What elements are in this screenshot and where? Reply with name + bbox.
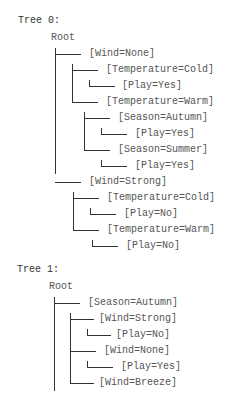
- tree-node: [Play=Yes]: [135, 160, 195, 172]
- tree-node: [Play=Yes]: [122, 80, 182, 92]
- tree-node: [Wind=None]: [89, 48, 155, 60]
- tree-node: [Wind=Strong]: [99, 313, 177, 325]
- tree-node: [Temperature=Warm]: [107, 224, 215, 236]
- tree-node: [Season=Summer]: [118, 144, 208, 156]
- tree-node: [Play=No]: [116, 329, 170, 341]
- tree-node: [Wind=None]: [104, 345, 170, 357]
- tree-node: [Play=No]: [126, 240, 180, 252]
- tree-node: [Season=Autumn]: [88, 297, 178, 309]
- tree-node: [Season=Autumn]: [118, 112, 208, 124]
- tree-node: [Play=No]: [124, 208, 178, 220]
- tree-node: [Wind=Strong]: [89, 176, 167, 188]
- tree-node: [Play=Yes]: [121, 361, 181, 373]
- tree-node: [Play=Yes]: [135, 128, 195, 140]
- tree-node: [Wind=Breeze]: [99, 377, 177, 389]
- tree-node: [Temperature=Cold]: [107, 192, 215, 204]
- tree-node: [Temperature=Cold]: [106, 64, 214, 76]
- tree-0-root: Root: [51, 32, 75, 44]
- tree-node: [Temperature=Warm]: [106, 96, 214, 108]
- tree-1-title: Tree 1:: [17, 264, 59, 276]
- tree-1-root: Root: [49, 281, 73, 293]
- tree-0-title: Tree 0:: [18, 15, 60, 27]
